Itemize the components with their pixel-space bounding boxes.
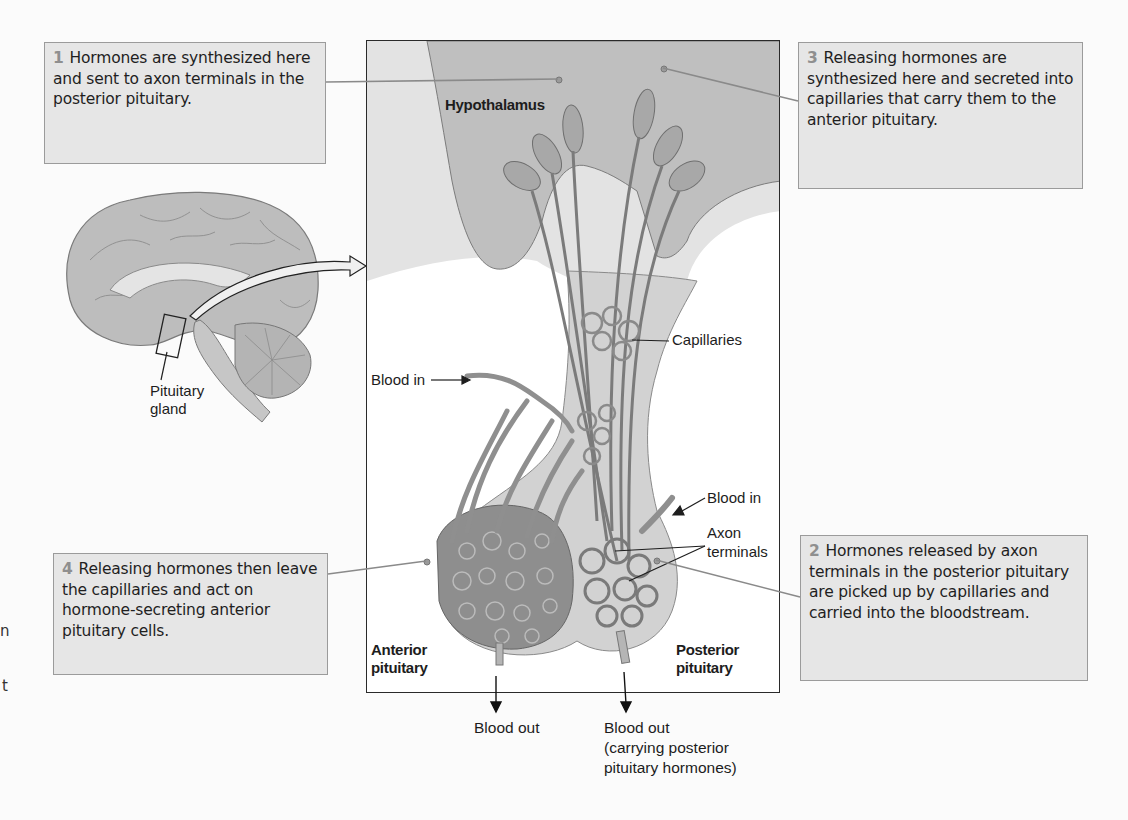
- callout-3: 3Releasing hormones are synthesized here…: [798, 42, 1083, 189]
- step-number-4: 4: [62, 560, 73, 578]
- posterior-pituitary-label: Posterior pituitary: [676, 641, 739, 677]
- callout-4: 4Releasing hormones then leave the capil…: [53, 553, 328, 675]
- blood-out-right-line3: pituitary hormones): [604, 758, 737, 778]
- pituitary-gland-label: Pituitary gland: [150, 382, 204, 418]
- blood-out-right-line2: (carrying posterior: [604, 738, 737, 758]
- posterior-pituitary-line1: Posterior: [676, 641, 739, 659]
- axon-terminals-line2: terminals: [707, 542, 768, 561]
- anterior-pituitary-line1: Anterior: [371, 641, 427, 659]
- capillaries-label: Capillaries: [672, 331, 742, 349]
- step-number-2: 2: [809, 542, 820, 560]
- axon-terminals-line1: Axon: [707, 523, 768, 542]
- callout-2-text: Hormones released by axon terminals in t…: [809, 542, 1069, 622]
- blood-out-left-label: Blood out: [474, 718, 540, 738]
- blood-out-right-label: Blood out (carrying posterior pituitary …: [604, 718, 737, 778]
- anterior-pituitary-label: Anterior pituitary: [371, 641, 427, 677]
- callout-3-text: Releasing hormones are synthesized here …: [807, 49, 1073, 129]
- pituitary-gland-label-line2: gland: [150, 400, 204, 418]
- anterior-pituitary-line2: pituitary: [371, 659, 427, 677]
- step-number-3: 3: [807, 49, 818, 67]
- pituitary-gland-label-line1: Pituitary: [150, 382, 204, 400]
- edge-text-fragment: n: [0, 622, 10, 640]
- hypothalamus-label: Hypothalamus: [445, 96, 545, 114]
- blood-in-right-label: Blood in: [707, 489, 761, 507]
- brain-illustration: [0, 0, 370, 440]
- callout-2: 2Hormones released by axon terminals in …: [800, 535, 1088, 681]
- axon-terminals-label: Axon terminals: [707, 523, 768, 561]
- posterior-pituitary-line2: pituitary: [676, 659, 739, 677]
- blood-in-left-label: Blood in: [371, 371, 425, 389]
- pituitary-detail-frame: Hypothalamus Capillaries Blood in Blood …: [366, 40, 780, 693]
- edge-text-fragment: t: [2, 677, 8, 695]
- blood-out-right-line1: Blood out: [604, 718, 737, 738]
- callout-4-text: Releasing hormones then leave the capill…: [62, 560, 317, 640]
- pituitary-detail-illustration: [367, 41, 780, 693]
